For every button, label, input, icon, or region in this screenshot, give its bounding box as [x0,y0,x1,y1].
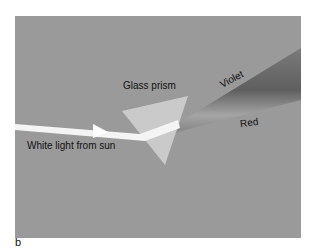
prism-diagram [0,0,312,251]
glass-prism-label: Glass prism [123,80,176,91]
white-light-label: White light from sun [27,140,115,151]
figure-caption-letter: b [15,236,21,248]
